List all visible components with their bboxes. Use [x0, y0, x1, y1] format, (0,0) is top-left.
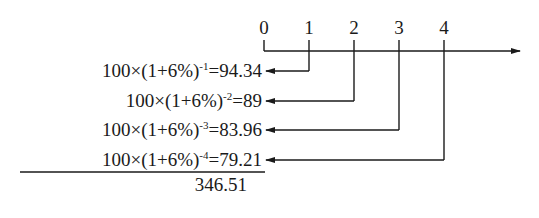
tick-label-0: 0	[254, 18, 274, 37]
formula-exponent: -2	[223, 90, 232, 102]
time-axis	[264, 40, 520, 51]
formula-result: =79.21	[209, 149, 262, 170]
formula-base: 100×(1+6%)	[102, 149, 199, 170]
present-value-diagram: 0 1 2 3 4 100×(1+6%)-1=94.34 100×(1+6%)-…	[0, 0, 539, 218]
connector-1	[266, 40, 309, 71]
formula-row-3: 100×(1+6%)-3=83.96	[102, 119, 262, 143]
formula-row-1: 100×(1+6%)-1=94.34	[102, 60, 262, 84]
tick-label-4: 4	[434, 18, 454, 37]
tick-label-3: 3	[389, 18, 409, 37]
formula-row-2: 100×(1+6%)-2=89	[126, 90, 262, 114]
formula-exponent: -3	[199, 119, 208, 131]
formula-base: 100×(1+6%)	[102, 119, 199, 140]
formula-exponent: -1	[199, 60, 208, 72]
connector-3	[266, 40, 399, 130]
tick-label-1: 1	[299, 18, 319, 37]
formula-exponent: -4	[199, 149, 208, 161]
tick-label-2: 2	[344, 18, 364, 37]
formula-base: 100×(1+6%)	[102, 60, 199, 81]
sum-total: 346.51	[195, 174, 247, 196]
connector-4	[266, 40, 444, 160]
formula-row-4: 100×(1+6%)-4=79.21	[102, 149, 262, 173]
formula-base: 100×(1+6%)	[126, 90, 223, 111]
formula-result: =89	[232, 90, 262, 111]
formula-result: =94.34	[209, 60, 262, 81]
formula-result: =83.96	[209, 119, 262, 140]
